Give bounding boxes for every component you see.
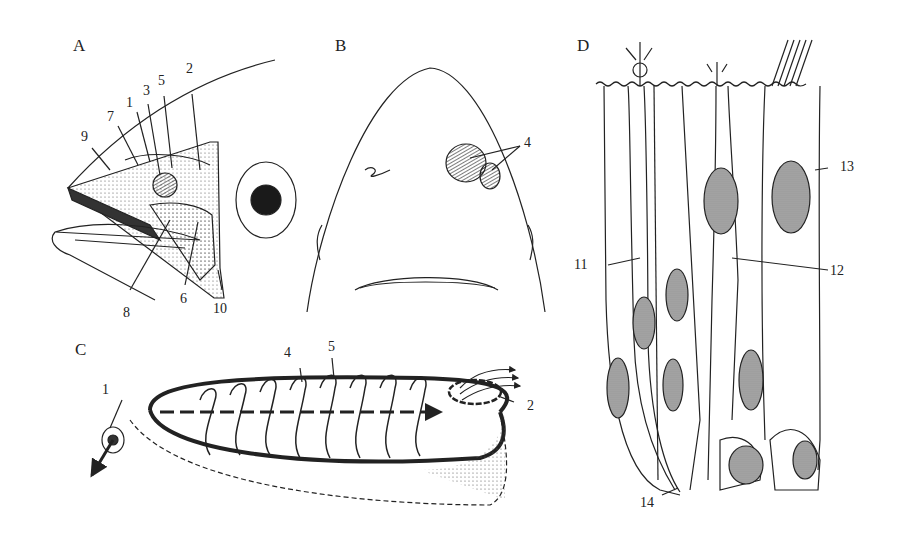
label-a-8: 8 bbox=[123, 306, 130, 320]
label-c-1: 1 bbox=[102, 383, 109, 397]
label-d-12: 12 bbox=[830, 264, 844, 278]
label-d-11: 11 bbox=[574, 258, 587, 272]
label-c-2: 2 bbox=[527, 399, 534, 413]
label-a-1: 1 bbox=[126, 96, 133, 110]
panel-a-drawing bbox=[52, 60, 296, 300]
label-a-6: 6 bbox=[180, 292, 187, 306]
label-c-4: 4 bbox=[284, 346, 291, 360]
panel-d-drawing bbox=[596, 40, 828, 495]
label-d-14: 14 bbox=[640, 496, 654, 510]
label-a-7: 7 bbox=[107, 110, 114, 124]
label-a-9: 9 bbox=[81, 130, 88, 144]
panel-d-letter: D bbox=[577, 36, 589, 56]
panel-c-drawing bbox=[92, 358, 520, 505]
label-c-5: 5 bbox=[328, 340, 335, 354]
panel-c-letter: C bbox=[75, 340, 86, 360]
panel-b-letter: B bbox=[335, 36, 346, 56]
panel-a-letter: A bbox=[73, 36, 85, 56]
figure-canvas bbox=[0, 0, 899, 541]
label-b-4: 4 bbox=[524, 136, 531, 150]
label-d-13: 13 bbox=[840, 160, 854, 174]
label-a-3: 3 bbox=[143, 84, 150, 98]
label-a-2: 2 bbox=[186, 62, 193, 76]
label-a-5: 5 bbox=[158, 74, 165, 88]
label-a-10: 10 bbox=[213, 302, 227, 316]
panel-b-drawing bbox=[307, 68, 545, 312]
